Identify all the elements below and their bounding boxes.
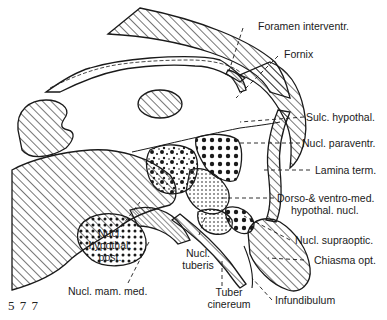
anatomy-drawing xyxy=(12,8,310,291)
label-nucl-mam-med: Nucl. mam. med. xyxy=(68,285,147,297)
label-tuber-cinereum-line1: Tuber xyxy=(206,286,252,298)
label-dorso-ventro-med-line1: Dorso-& ventro-med. xyxy=(277,192,374,204)
figure-number: 5 7 7 xyxy=(8,298,39,314)
left-upper-lobe xyxy=(18,100,73,157)
label-nucl-tuberis-line2: tuberis xyxy=(175,259,221,271)
label-nucl-hypothal-post-line3: post. xyxy=(80,251,140,263)
hypothalamus-illustration xyxy=(0,0,387,320)
label-nucl-hypothal-post-line1: Nucl. xyxy=(80,227,140,239)
label-chiasma-opt: Chiasma opt. xyxy=(314,254,376,266)
lamina-terminalis xyxy=(266,110,290,222)
label-tuber-cinereum-line2: cinereum xyxy=(206,298,252,310)
label-lamina-term: Lamina term. xyxy=(315,164,376,176)
optic-chiasm xyxy=(248,219,310,291)
label-sulc-hypothal: Sulc. hypothal. xyxy=(306,111,375,123)
label-nucl-tuberis-line1: Nucl. xyxy=(175,247,221,259)
label-infundibulum: Infundibulum xyxy=(275,294,335,306)
label-dorso-ventro-med-line2: hypothal. nucl. xyxy=(291,204,359,216)
label-nucl-paraventr: Nucl. paraventr. xyxy=(302,137,376,149)
label-nucl-supraoptic: Nucl. supraoptic. xyxy=(295,234,373,246)
label-foramen-interventr: Foramen interventr. xyxy=(258,20,349,32)
label-nucl-hypothal-post-line2: hypothal. xyxy=(80,239,140,251)
label-fornix: Fornix xyxy=(284,48,313,60)
interthalamic-adhesion xyxy=(138,90,182,118)
